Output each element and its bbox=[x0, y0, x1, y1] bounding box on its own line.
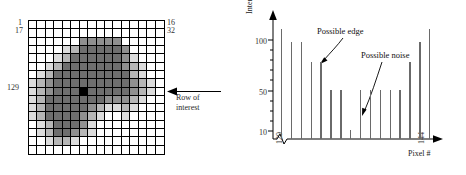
pixel-cell bbox=[29, 88, 37, 96]
pixel-cell bbox=[71, 54, 79, 62]
pixel-cell bbox=[156, 21, 164, 29]
pixel-cell bbox=[63, 129, 71, 137]
pixel-cell bbox=[46, 137, 54, 145]
pixel-cell bbox=[63, 121, 71, 129]
pixel-cell bbox=[37, 104, 45, 112]
pixel-cell bbox=[88, 71, 96, 79]
pixel-cell bbox=[147, 54, 155, 62]
pixel-cell bbox=[46, 71, 54, 79]
pixel-cell bbox=[139, 38, 147, 46]
pixel-cell bbox=[97, 63, 105, 71]
pixel-cell bbox=[105, 121, 113, 129]
pixel-cell bbox=[147, 71, 155, 79]
pixel-cell bbox=[97, 88, 105, 96]
pixel-cell bbox=[139, 88, 147, 96]
pixel-cell bbox=[63, 71, 71, 79]
pixel-cell bbox=[156, 129, 164, 137]
pixel-cell bbox=[105, 21, 113, 29]
pixel-cell bbox=[147, 104, 155, 112]
pixel-cell bbox=[139, 46, 147, 54]
pixel-cell bbox=[156, 112, 164, 120]
bar bbox=[311, 62, 312, 139]
pixel-cell bbox=[113, 79, 121, 87]
pixel-cell bbox=[80, 137, 88, 145]
pixel-cell bbox=[80, 63, 88, 71]
pixel-cell bbox=[63, 29, 71, 37]
pixel-cell bbox=[37, 29, 45, 37]
pixel-cell bbox=[105, 79, 113, 87]
pixel-cell bbox=[113, 21, 121, 29]
pixel-cell bbox=[113, 104, 121, 112]
pixel-cell bbox=[37, 129, 45, 137]
pixel-cell bbox=[147, 96, 155, 104]
annotation-possible-noise: Possible noise bbox=[361, 50, 409, 60]
pixel-cell bbox=[29, 21, 37, 29]
pixel-cell bbox=[156, 71, 164, 79]
pixel-cell bbox=[97, 137, 105, 145]
pixel-cell bbox=[113, 46, 121, 54]
pixel-cell bbox=[105, 112, 113, 120]
pixel-cell bbox=[139, 79, 147, 87]
pixel-cell bbox=[130, 146, 138, 154]
pixel-cell bbox=[122, 63, 130, 71]
pixel-cell bbox=[80, 88, 88, 96]
pixel-cell bbox=[147, 88, 155, 96]
pixel-cell bbox=[139, 71, 147, 79]
pixel-cell bbox=[71, 137, 79, 145]
pixel-cell bbox=[130, 88, 138, 96]
bar bbox=[330, 90, 331, 140]
grid-label-top-left-col: 17 bbox=[15, 27, 23, 36]
pixel-cell bbox=[156, 137, 164, 145]
pixel-cell bbox=[80, 38, 88, 46]
pixel-cell bbox=[105, 137, 113, 145]
pixel-cell bbox=[147, 29, 155, 37]
pixel-cell bbox=[130, 46, 138, 54]
pixel-cell bbox=[71, 104, 79, 112]
pixel-cell bbox=[46, 88, 54, 96]
pixel-cell bbox=[156, 121, 164, 129]
pixel-cell bbox=[105, 146, 113, 154]
pixel-cell bbox=[156, 38, 164, 46]
pixel-cell bbox=[80, 96, 88, 104]
pixel-cell bbox=[37, 96, 45, 104]
pixel-cell bbox=[97, 71, 105, 79]
pixel-cell bbox=[63, 46, 71, 54]
pixel-cell bbox=[139, 96, 147, 104]
pixel-cell bbox=[122, 96, 130, 104]
pixel-cell bbox=[97, 129, 105, 137]
pixel-cell bbox=[122, 137, 130, 145]
pixel-cell bbox=[156, 146, 164, 154]
pixel-cell bbox=[147, 121, 155, 129]
pixel-cell bbox=[88, 29, 96, 37]
pixel-cell bbox=[122, 104, 130, 112]
pixel-cell bbox=[156, 46, 164, 54]
pixel-cell bbox=[80, 104, 88, 112]
pixel-cell bbox=[71, 46, 79, 54]
pixel-cell bbox=[46, 121, 54, 129]
pixel-cell bbox=[54, 79, 62, 87]
pixel-cell bbox=[113, 38, 121, 46]
pixel-cell bbox=[113, 88, 121, 96]
pixel-cell bbox=[37, 63, 45, 71]
x-axis-label: Pixel # bbox=[408, 149, 430, 158]
pixel-cell bbox=[130, 29, 138, 37]
pixel-cell bbox=[97, 21, 105, 29]
pixel-cell bbox=[139, 63, 147, 71]
pixel-cell bbox=[63, 79, 71, 87]
pixel-cell bbox=[147, 63, 155, 71]
pixel-cell bbox=[130, 38, 138, 46]
pixel-cell bbox=[130, 121, 138, 129]
bar bbox=[380, 90, 381, 140]
pixel-cell bbox=[88, 121, 96, 129]
pixel-cell bbox=[71, 71, 79, 79]
bar bbox=[291, 42, 292, 139]
pixel-cell bbox=[37, 46, 45, 54]
pixel-cell bbox=[80, 21, 88, 29]
pixel-cell bbox=[88, 38, 96, 46]
pixel-cell bbox=[139, 54, 147, 62]
bar bbox=[301, 42, 302, 139]
bar bbox=[390, 90, 391, 140]
pixel-cell bbox=[130, 129, 138, 137]
pixel-cell bbox=[80, 71, 88, 79]
pixel-cell bbox=[29, 121, 37, 129]
